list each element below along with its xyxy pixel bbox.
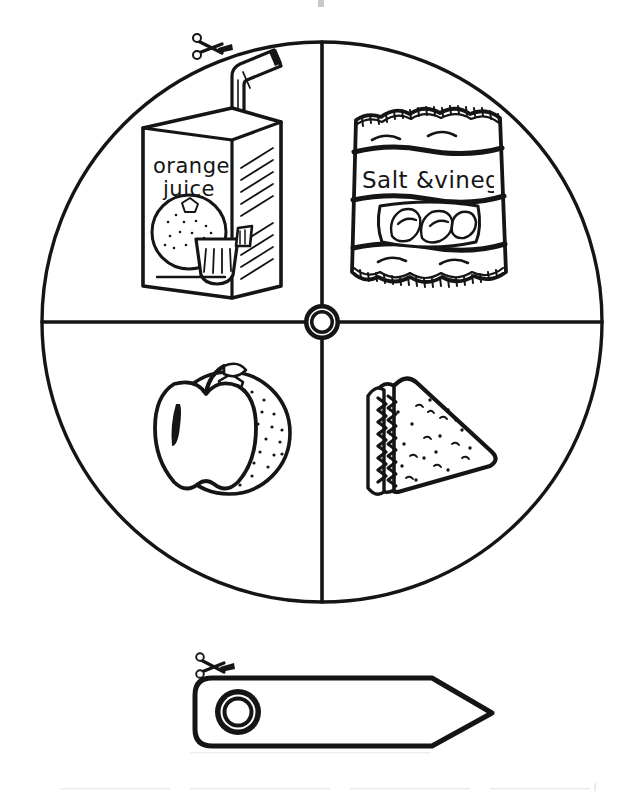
segment-crisps-packet[interactable]: Salt &vinega bbox=[352, 106, 515, 287]
pointer-pivot-hole[interactable] bbox=[215, 689, 261, 735]
spinner-center-hub[interactable] bbox=[304, 304, 340, 340]
worksheet-page: orange juice bbox=[0, 0, 641, 795]
apple-fruit bbox=[155, 382, 256, 488]
scan-artifact-top bbox=[318, 0, 324, 7]
crisps-window bbox=[378, 202, 479, 247]
orange-wedge bbox=[236, 226, 252, 246]
crisps-packet-label: Salt &vinega bbox=[362, 167, 515, 193]
spinner-worksheet-illustration: orange juice bbox=[0, 0, 641, 795]
juice-carton-label-line1: orange bbox=[153, 154, 230, 178]
apple-leaf bbox=[224, 364, 246, 377]
